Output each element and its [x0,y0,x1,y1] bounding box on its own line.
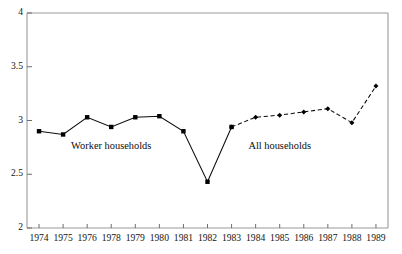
data-point-marker [85,115,89,119]
x-tick-label: 1978 [102,232,121,243]
x-tick-label: 1974 [29,232,48,243]
data-point-marker [205,180,209,184]
data-point-marker [37,129,41,133]
x-tick-label: 1983 [222,232,241,243]
data-point-marker [61,132,65,136]
chart-background [0,0,402,254]
x-tick-label: 1975 [54,232,73,243]
annotation-label-1: All households [248,140,311,151]
x-tick-label: 1976 [78,232,97,243]
x-tick-label: 1988 [342,232,361,243]
line-chart: 43.532.52 197419751976197819791980198119… [0,0,402,254]
y-tick-label: 2.5 [11,167,23,178]
y-tick-label: 2 [18,221,23,232]
annotation-label-0: Worker households [71,140,151,151]
x-tick-label: 1981 [174,232,193,243]
x-tick-label: 1987 [318,232,337,243]
y-tick-label: 3 [18,114,23,125]
x-tick-label: 1986 [294,232,313,243]
chart-canvas: 43.532.52 197419751976197819791980198119… [0,0,402,254]
x-tick-label: 1989 [366,232,385,243]
y-tick-label: 3.5 [11,60,23,71]
y-tick-label: 4 [18,6,23,17]
x-tick-label: 1985 [270,232,289,243]
data-point-marker [133,115,137,119]
x-tick-label: 1980 [150,232,169,243]
data-point-marker [109,125,113,129]
x-tick-label: 1979 [126,232,145,243]
x-tick-label: 1984 [246,232,265,243]
data-point-marker [181,129,185,133]
x-tick-label: 1982 [198,232,217,243]
data-point-marker [157,114,161,118]
